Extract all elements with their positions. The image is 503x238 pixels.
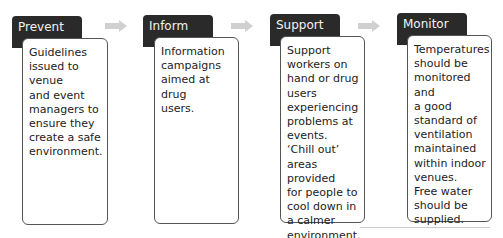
divider — [360, 227, 490, 228]
stage-box-support: Support workers on hand or drug users ex… — [280, 36, 365, 223]
stage-box-monitor: Temperatures should be monitored and a g… — [407, 35, 492, 222]
process-diagram: Prevent Guidelines issued to venue and e… — [0, 0, 503, 238]
arrow-right-icon — [358, 20, 380, 32]
stage-box-inform: Information campaigns aimed at drug user… — [154, 37, 239, 224]
arrow-right-icon — [105, 20, 127, 32]
stage-box-prevent: Guidelines issued to venue and event man… — [22, 38, 108, 225]
arrow-right-icon — [231, 20, 253, 32]
